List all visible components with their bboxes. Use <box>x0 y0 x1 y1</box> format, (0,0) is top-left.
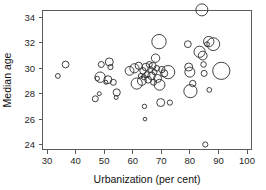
y-tick-label: 24 <box>24 139 35 150</box>
x-tick-label: 30 <box>42 155 53 166</box>
x-tick-label: 80 <box>185 155 196 166</box>
chart-canvas: 242628303234 30405060708090100 Urbanizat… <box>0 0 266 190</box>
x-tick-label: 70 <box>156 155 167 166</box>
x-tick-label: 90 <box>213 155 224 166</box>
y-tick-label: 34 <box>24 12 35 23</box>
y-tick-label: 32 <box>24 37 35 48</box>
y-tick-label: 30 <box>24 63 35 74</box>
bubble-chart-figure: 242628303234 30405060708090100 Urbanizat… <box>0 0 266 190</box>
y-tick-label: 28 <box>24 88 35 99</box>
x-tick-label: 40 <box>70 155 81 166</box>
y-tick-label: 26 <box>24 114 35 125</box>
x-tick-label: 50 <box>99 155 110 166</box>
x-tick-label: 100 <box>239 155 255 166</box>
x-axis-title: Urbanization (per cent) <box>94 173 201 185</box>
y-axis-title: Median age <box>1 52 13 107</box>
x-tick-label: 60 <box>127 155 138 166</box>
